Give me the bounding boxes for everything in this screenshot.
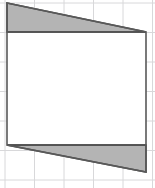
geometry-figure-svg [0, 0, 155, 188]
figure-container [0, 0, 155, 188]
quadrilateral-fill [7, 32, 146, 145]
